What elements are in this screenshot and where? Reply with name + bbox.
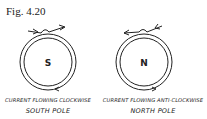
caption-line-1: CURRENT FLOWING CLOCKWISE: [0, 98, 98, 103]
pole-letter-south: S: [45, 58, 51, 68]
caption-north: CURRENT FLOWING ANTI-CLOCKWISE NORTH POL…: [100, 98, 206, 115]
caption-line-1: CURRENT FLOWING ANTI-CLOCKWISE: [100, 98, 206, 103]
caption-line-2: NORTH POLE: [100, 108, 206, 115]
caption-line-2: SOUTH POLE: [0, 108, 98, 115]
pole-letter-north: N: [140, 58, 148, 68]
lead-wire: [28, 27, 64, 33]
arrow-icon: [155, 24, 160, 29]
caption-south: CURRENT FLOWING CLOCKWISE SOUTH POLE: [0, 98, 98, 115]
